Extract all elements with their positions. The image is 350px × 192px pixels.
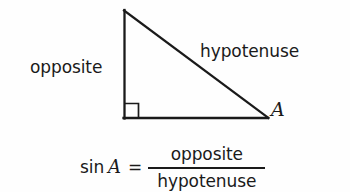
formula-fraction: opposite hypotenuse [148,143,265,192]
sine-formula: sin A = opposite hypotenuse [80,143,265,192]
right-angle-marker-icon [124,104,139,119]
formula-sin-function: sin [80,157,104,177]
fraction-denominator: hypotenuse [155,170,258,192]
trigonometry-figure: opposite hypotenuse A sin A = opposite h… [0,0,350,192]
formula-variable-a: A [108,156,121,177]
label-opposite: opposite [30,57,102,77]
fraction-numerator: opposite [169,143,245,165]
formula-left-side: sin A = [80,156,148,179]
label-hypotenuse: hypotenuse [200,41,299,61]
fraction-bar [148,167,265,169]
triangle-side-hypotenuse [124,11,269,119]
label-angle-a: A [271,99,285,119]
formula-equals-sign: = [128,157,142,177]
